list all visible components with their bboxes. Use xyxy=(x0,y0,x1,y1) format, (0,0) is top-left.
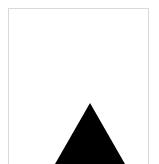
triangle-shape[interactable] xyxy=(51,103,129,164)
shape-canvas xyxy=(0,0,159,164)
shape-layer xyxy=(9,9,149,164)
bordered-panel xyxy=(8,8,149,164)
